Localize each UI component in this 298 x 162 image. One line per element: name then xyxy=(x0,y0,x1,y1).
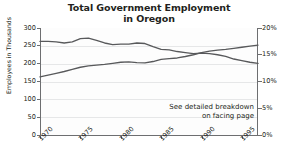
annotation-line-1: See detailed breakdown xyxy=(169,103,254,112)
series-line-employees xyxy=(40,45,258,77)
annotation-line-2: on facing page xyxy=(169,112,254,121)
annotation-see-detailed-breakdown: See detailed breakdown on facing page xyxy=(169,103,254,121)
series-line-percentage xyxy=(40,38,258,63)
chart-container: Total Government Employment in Oregon Em… xyxy=(0,0,298,162)
data-lines xyxy=(0,0,298,162)
